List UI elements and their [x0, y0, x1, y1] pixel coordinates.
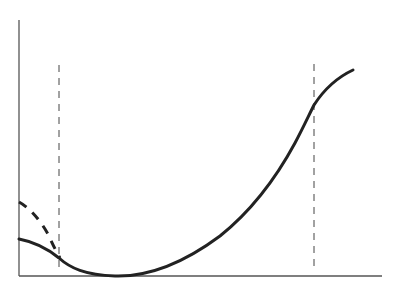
chart-container — [0, 0, 397, 291]
dashed-curve — [19, 202, 60, 258]
solid-curve — [19, 70, 353, 276]
chart-canvas — [0, 0, 397, 291]
